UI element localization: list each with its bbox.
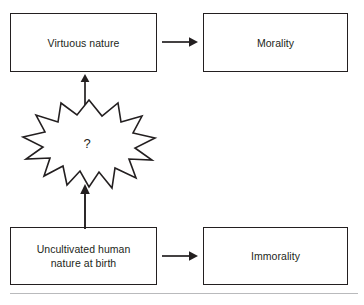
node-morality-label: Morality xyxy=(257,36,294,50)
node-virtuous-nature-label: Virtuous nature xyxy=(48,36,120,50)
arrow-right-icon-virtuous-to-morality xyxy=(160,33,200,51)
node-uncultivated-human-nature: Uncultivated human nature at birth xyxy=(10,227,157,285)
node-uncultivated-human-nature-label: Uncultivated human nature at birth xyxy=(37,242,131,270)
arrow-up-icon-uncultivated-to-burst xyxy=(74,184,96,230)
diagram-canvas: Virtuous nature Morality Uncultivated hu… xyxy=(0,0,364,305)
starburst-question-mark-label: ? xyxy=(70,130,104,156)
node-virtuous-nature: Virtuous nature xyxy=(10,13,157,72)
node-morality: Morality xyxy=(203,13,348,72)
node-immorality-label: Immorality xyxy=(251,249,300,263)
node-immorality: Immorality xyxy=(203,227,348,285)
arrow-right-icon-uncultivated-to-immorality xyxy=(160,247,200,265)
footer-divider xyxy=(10,293,358,294)
